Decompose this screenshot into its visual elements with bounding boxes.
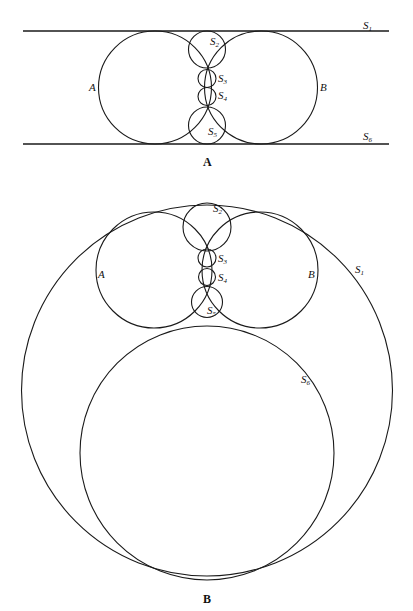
circle-chain-diagram: S1 S2 S3 S4 S5 S6 A B A S2 S3 S4 S5 S1 S…: [0, 0, 413, 611]
label-s4: S4: [218, 89, 228, 103]
label-s6: S6: [363, 130, 373, 144]
label-s4: S4: [218, 271, 228, 285]
circle-s6: [80, 326, 334, 580]
label-a: A: [97, 268, 105, 280]
label-s5: S5: [208, 125, 218, 139]
circle-s3: [198, 249, 216, 267]
circle-a: [99, 31, 212, 144]
label-s2: S2: [213, 202, 223, 216]
label-s3: S3: [218, 252, 228, 266]
label-s1: S1: [355, 263, 364, 277]
label-s3: S3: [218, 72, 228, 86]
circle-s2: [183, 203, 231, 251]
caption-a: A: [203, 155, 212, 169]
caption-b: B: [203, 592, 211, 606]
circle-s1: [22, 205, 393, 576]
circle-s5: [189, 107, 226, 144]
label-s1: S1: [363, 19, 372, 33]
label-b: B: [308, 268, 315, 280]
label-s6: S6: [301, 373, 311, 387]
label-b: B: [320, 81, 327, 93]
figure-a: S1 S2 S3 S4 S5 S6 A B A: [23, 19, 389, 169]
circle-b: [205, 31, 318, 144]
circle-s2: [189, 31, 226, 68]
circle-s4: [199, 269, 216, 286]
label-s2: S2: [210, 35, 220, 49]
label-a: A: [88, 81, 96, 93]
figure-b: S2 S3 S4 S5 S1 S6 A B B: [22, 202, 393, 606]
